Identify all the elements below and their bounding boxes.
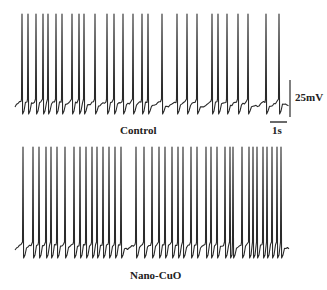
voltage-trace-path — [15, 14, 289, 114]
time-scale-label: 1s — [272, 124, 282, 136]
control-trace — [15, 14, 289, 114]
control-label: Control — [120, 124, 156, 136]
voltage-trace-path — [15, 147, 289, 258]
spike-trace-chart — [0, 0, 327, 290]
nano-cuo-trace — [15, 147, 289, 258]
voltage-scale-label: 25mV — [295, 91, 323, 103]
nano-cuo-label: Nano-CuO — [130, 269, 181, 281]
